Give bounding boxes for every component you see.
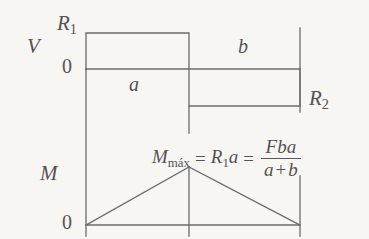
formula-m-subscript: máx [168,155,190,170]
formula-den-a: a [264,159,274,180]
shear-zero-label: 0 [62,56,72,76]
formula-denominator: a+b [261,158,301,180]
formula-den-plus: + [274,159,289,180]
shear-axis-label: V [27,36,40,57]
reaction-right-subscript: 2 [322,96,329,112]
reaction-left-label: R1 [57,13,77,36]
reaction-right-symbol: R [309,86,322,110]
formula-r-letter: R [211,146,223,167]
formula-term-r1a: R1a [211,147,239,170]
beam-diagram-figure: V R1 0 a b R2 M 0 Mmáx = R1a = Fba a+b [0,0,369,239]
reaction-left-subscript: 1 [70,21,77,37]
formula-m-letter: M [152,146,168,167]
reaction-left-symbol: R [57,11,70,35]
formula-equals-2: = [241,149,256,168]
span-a-label: a [129,74,139,94]
formula-fraction: Fba a+b [261,137,301,180]
moment-zero-label: 0 [62,212,72,232]
reaction-right-label: R2 [309,88,329,111]
span-b-label: b [238,36,248,56]
formula-den-b: b [288,159,298,180]
diagram-canvas [0,0,369,239]
formula-equals-1: = [193,149,208,168]
formula-numerator: Fba [263,137,300,158]
formula-a-letter: a [229,146,239,167]
formula-m-symbol: Mmáx [152,147,190,170]
moment-axis-label: M [40,163,58,184]
moment-max-formula: Mmáx = R1a = Fba a+b [152,137,301,180]
